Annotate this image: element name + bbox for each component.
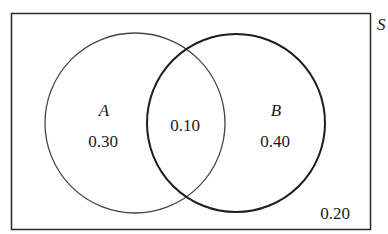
intersection-value: 0.10 <box>170 116 200 135</box>
venn-diagram: S A 0.30 0.10 B 0.40 0.20 <box>0 0 388 234</box>
sample-space-label: S <box>377 15 386 34</box>
outside-value: 0.20 <box>320 204 350 223</box>
set-b-label: B <box>271 101 282 120</box>
set-a-only-value: 0.30 <box>88 132 118 151</box>
set-b-only-value: 0.40 <box>260 132 290 151</box>
set-a-label: A <box>98 101 110 120</box>
